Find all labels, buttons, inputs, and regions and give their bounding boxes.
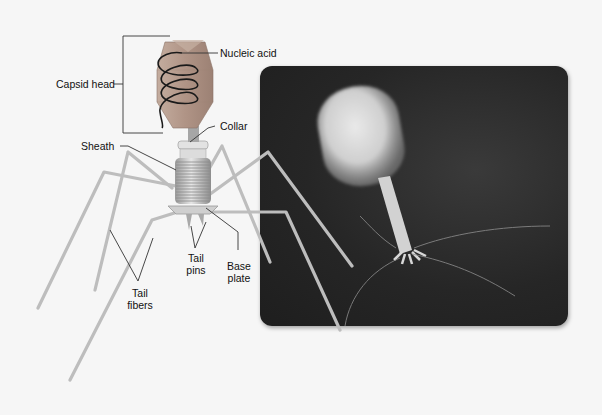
label-sheath: Sheath [81,140,114,152]
bacteriophage-figure: Capsid head Nucleic acid Collar Sheath T… [0,0,602,415]
label-tail-pins: Tail pins [180,252,212,276]
label-tail-fibers: Tail fibers [122,287,158,311]
label-collar: Collar [220,120,247,132]
phage-diagram [0,0,602,415]
collar [178,141,208,149]
label-nucleic-acid: Nucleic acid [220,47,277,59]
tail-pins [186,214,204,230]
sheath [175,158,211,204]
label-capsid-head: Capsid head [56,78,115,90]
base-plate [168,206,218,214]
label-base-plate: Base plate [222,260,256,284]
